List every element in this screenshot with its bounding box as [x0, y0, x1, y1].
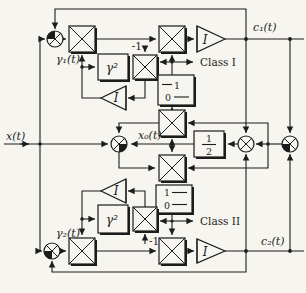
integrator-c2-label: I [202, 245, 208, 259]
wire-junction-lower-tap [119, 152, 155, 168]
wire-x-branch-up [40, 39, 45, 144]
squarer-top-label: γ² [106, 61, 118, 75]
gamma1-weight-label: γ₁(t) [56, 53, 80, 66]
gain-half-block: 1 2 [194, 131, 226, 159]
multiplier-box-top-center [159, 26, 187, 54]
c1-signal-label: c₁(t) [253, 21, 277, 34]
minus1-top-label: -1 [132, 40, 142, 52]
multiplier-box-bottom-center [159, 238, 187, 266]
x0-signal-label: x₀(t) [138, 129, 162, 142]
squarer-block-top: γ² [98, 54, 130, 82]
summing-junction-top-left [47, 31, 63, 47]
half-denominator: 2 [206, 146, 212, 157]
integrator-triangle-c1: I [197, 26, 225, 52]
integrator-c1-label: I [202, 33, 208, 47]
half-numerator: 1 [206, 133, 212, 144]
class2-label: Class II [200, 215, 240, 227]
c2-signal-label: c₂(t) [261, 235, 285, 248]
integrator-triangle-loop-bottom: I [101, 179, 126, 203]
multiplier-box-loop-top [133, 55, 159, 81]
multiplier-box-center-lower [159, 155, 187, 183]
input-signal-label: x(t) [6, 130, 25, 143]
class1-label: Class I [200, 56, 236, 68]
comparator1-one: 1 [174, 80, 180, 91]
comparator-block-class1: 1 0 [158, 75, 196, 107]
multiplier-box-center-upper [159, 110, 187, 138]
summing-junction-center [111, 136, 127, 152]
summing-junction-right [282, 136, 298, 152]
comparator1-zero: 0 [165, 92, 171, 103]
integrator-loop-top-label: I [113, 91, 119, 105]
comparator2-one: 1 [164, 187, 170, 198]
minus1-bottom-label: -1 [149, 235, 159, 247]
integrator-triangle-loop-top: I [101, 86, 126, 110]
squarer-block-bottom: γ² [98, 205, 130, 235]
scanned-figure: I γ² I 1 0 [0, 0, 306, 293]
multiplier-box-loop-bottom [133, 207, 159, 233]
wire-x-branch-down [40, 144, 42, 251]
comparator2-zero: 0 [164, 200, 170, 211]
multiplier-box-gamma2 [69, 238, 97, 266]
integrator-triangle-c2: I [197, 239, 225, 263]
squarer-bottom-label: γ² [106, 213, 118, 227]
multiplier-box-gamma1 [69, 26, 97, 54]
summing-junction-bottom-left [44, 243, 60, 259]
multiplier-junction-right [238, 136, 254, 152]
signal-flow-diagram: I γ² I 1 0 [0, 0, 306, 293]
gamma2-weight-label: γ₂(t) [56, 227, 80, 240]
wire-mult-to-loop-integrator-low [128, 191, 145, 207]
comparator-block-class2: 1 0 [156, 185, 194, 215]
integrator-loop-bottom-label: I [113, 184, 119, 198]
wire-mult-to-loop-integrator-top [128, 79, 145, 98]
